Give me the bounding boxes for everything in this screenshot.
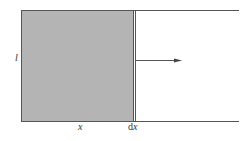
increment-x: x (133, 121, 137, 132)
diagram-canvas (0, 0, 251, 141)
width-label: x (78, 122, 82, 132)
motion-arrow-head (174, 59, 182, 63)
height-label: l (15, 53, 18, 63)
increment-label: dx (128, 122, 137, 132)
shaded-region (22, 11, 134, 122)
